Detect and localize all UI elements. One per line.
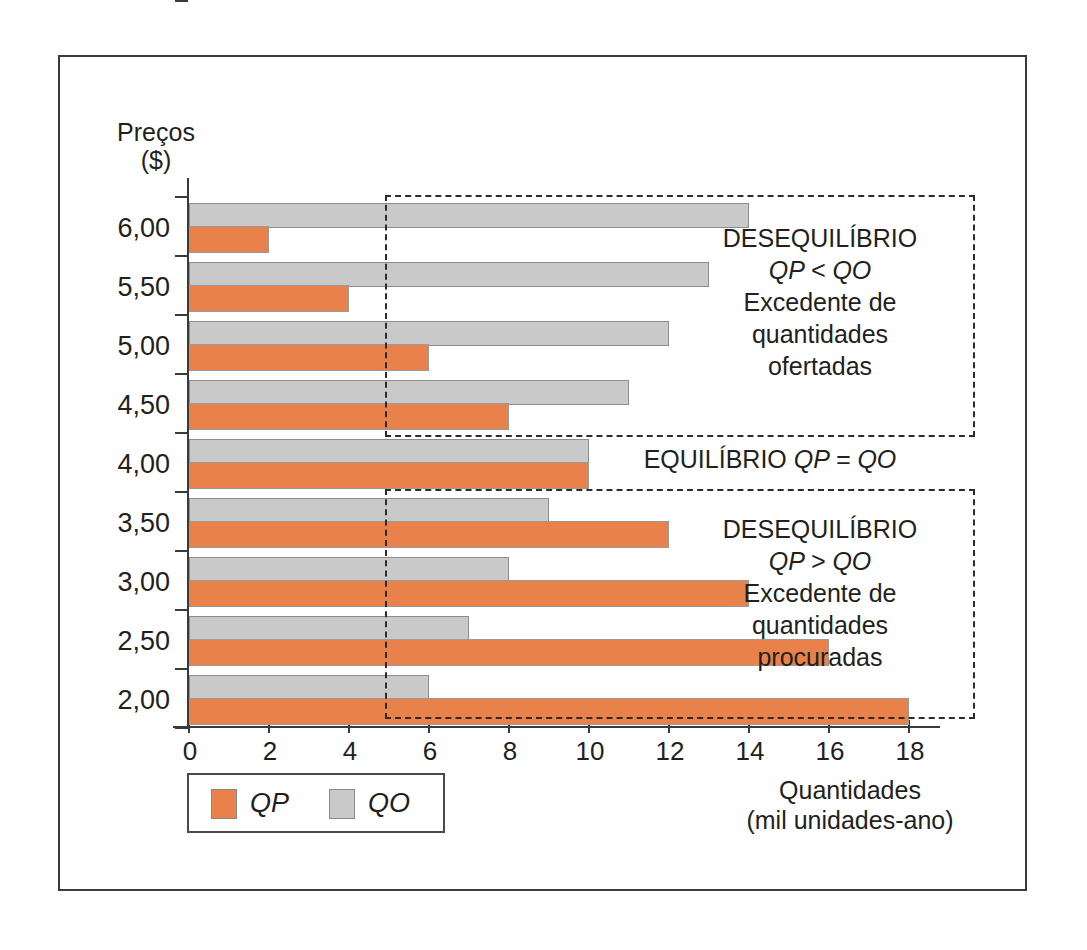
annotation-line: DESEQUILÍBRIO [690,513,950,545]
y-tick-label: 4,00 [82,449,170,480]
legend-label-qp: QP [250,788,289,819]
annotation-line: quantidades [690,318,950,350]
x-axis-title-line2: (mil unidades-ano) [700,805,1000,835]
y-tick [175,314,188,316]
annotation-line: procuradas [690,641,950,673]
bar-qo [189,439,589,464]
x-tick-label: 10 [560,736,620,767]
annotation-line: EQUILÍBRIO QP = QO [590,443,950,475]
y-tick-label: 3,50 [82,508,170,539]
y-tick-label: 5,00 [82,331,170,362]
annotation-equilibrium: EQUILÍBRIO QP = QO [590,443,950,475]
x-tick-label: 2 [240,736,300,767]
y-tick [175,255,188,257]
legend-label-qo: QO [368,788,410,819]
x-tick-label: 8 [480,736,540,767]
annotation-line: QP > QO [690,545,950,577]
y-tick [175,609,188,611]
legend-swatch-qo-icon [329,789,355,819]
bar-qp [189,285,349,312]
legend-swatch-qp-icon [211,789,237,819]
legend-entry-qp: QP [211,788,289,819]
y-tick-label: 2,50 [82,626,170,657]
annotation-line: Excedente de [690,577,950,609]
annotation-line: quantidades [690,609,950,641]
annotation-line: QP < QO [690,254,950,286]
y-tick-label: 2,00 [82,685,170,716]
legend-entry-qo: QO [329,788,410,819]
x-axis-title-line1: Quantidades [700,775,1000,805]
annotation-line: ofertadas [690,350,950,382]
y-tick-label: 4,50 [82,390,170,421]
bar-qp [189,226,269,253]
annotation-surplus-demand: DESEQUILÍBRIO QP > QO Excedente de quant… [690,513,950,673]
y-tick [175,0,188,2]
annotation-line: DESEQUILÍBRIO [690,222,950,254]
y-tick-label: 3,00 [82,567,170,598]
x-tick-label: 14 [720,736,780,767]
annotation-equilibrium-expr: QP = QO [794,445,897,473]
bar-chart: Preços ($) Quantidades (mil unidades-ano… [0,0,1087,950]
y-tick [175,196,188,198]
y-axis-labels: 6,00 5,50 5,00 4,50 4,00 3,50 3,00 2,50 … [82,0,170,950]
y-tick [175,668,188,670]
y-tick-label: 6,00 [82,213,170,244]
y-tick [175,373,188,375]
y-tick [175,432,188,434]
annotation-line: Excedente de [690,286,950,318]
y-tick [175,491,188,493]
x-tick-label: 4 [320,736,380,767]
chart-legend: QP QO [187,773,445,833]
y-tick [175,727,188,729]
x-tick-label: 0 [160,736,220,767]
annotation-equilibrium-prefix: EQUILÍBRIO [644,445,794,473]
x-tick-label: 12 [640,736,700,767]
x-axis-line [173,726,940,728]
annotation-surplus-supply: DESEQUILÍBRIO QP < QO Excedente de quant… [690,222,950,382]
x-tick-label: 6 [400,736,460,767]
y-tick-label: 5,50 [82,272,170,303]
x-axis-title: Quantidades (mil unidades-ano) [700,775,1000,835]
bar-qp [189,462,589,489]
x-tick-label: 16 [800,736,860,767]
x-tick-label: 18 [880,736,940,767]
y-tick [175,550,188,552]
